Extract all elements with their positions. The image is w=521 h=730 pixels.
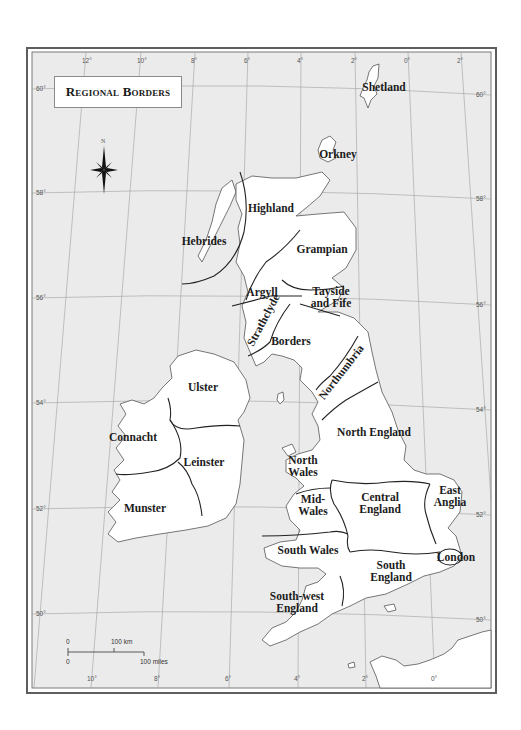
graticule-tick-label: 2° (362, 675, 368, 682)
scale-km-label: 100 km (111, 638, 132, 645)
region-label: Borders (271, 335, 311, 347)
region-label: Tayside and Fife (311, 285, 352, 309)
graticule-tick-label: 4° (297, 57, 303, 64)
region-label: South Wales (278, 544, 339, 556)
region-label: East Anglia (434, 484, 467, 508)
graticule-tick-label: 54° (36, 399, 46, 406)
graticule-tick-label: 60° (36, 85, 46, 92)
region-label: Leinster (184, 456, 225, 468)
scale-mi-label: 100 miles (140, 658, 168, 665)
graticule-tick-label: 8° (191, 57, 197, 64)
region-label: Ulster (188, 381, 218, 393)
region-label: Shetland (362, 81, 405, 93)
graticule-tick-label: 10° (87, 675, 97, 682)
graticule-tick-label: 58° (476, 195, 486, 202)
region-label: Grampian (296, 243, 347, 255)
graticule-tick-label: 0° (431, 675, 437, 682)
region-label: Hebrides (182, 235, 227, 247)
graticule-tick-label: 12° (82, 57, 92, 64)
compass-north-label: N (101, 138, 105, 144)
graticule-tick-label: 56° (476, 301, 486, 308)
map-title: Regional Borders (66, 84, 171, 100)
graticule-tick-label: 4° (294, 675, 300, 682)
graticule-tick-label: 50° (476, 616, 486, 623)
region-label: South-west England (270, 590, 324, 614)
regional-borders-map: Regional Borders N 0 100 km 0 100 miles … (0, 0, 521, 730)
graticule-tick-label: 52° (36, 505, 46, 512)
region-label: Highland (248, 202, 294, 214)
graticule-tick-label: 2° (457, 57, 463, 64)
graticule-tick-label: 6° (225, 675, 231, 682)
graticule-tick-label: 52° (476, 511, 486, 518)
graticule-tick-label: 6° (244, 57, 250, 64)
region-label: North England (337, 426, 411, 438)
region-label: North Wales (288, 454, 317, 478)
region-label: South England (370, 559, 412, 583)
map-sea (32, 52, 491, 688)
region-label: Connacht (109, 431, 157, 443)
region-label: Orkney (319, 148, 357, 160)
graticule-tick-label: 60° (476, 91, 486, 98)
region-label: London (437, 551, 475, 563)
graticule-tick-label: 50° (36, 610, 46, 617)
graticule-tick-label: 54° (476, 406, 486, 413)
region-label: Munster (124, 502, 166, 514)
region-label: Central England (359, 491, 401, 515)
scale-mi-zero: 0 (66, 658, 70, 665)
graticule-tick-label: 58° (36, 189, 46, 196)
map-title-box: Regional Borders (54, 76, 182, 108)
map-canvas (0, 0, 521, 730)
graticule-tick-label: 56° (36, 294, 46, 301)
scale-km-zero: 0 (66, 638, 70, 645)
graticule-tick-label: 10° (137, 57, 147, 64)
graticule-tick-label: 8° (154, 675, 160, 682)
graticule-tick-label: 2° (351, 57, 357, 64)
graticule-tick-label: 0° (404, 57, 410, 64)
region-label: Mid- Wales (298, 493, 327, 517)
